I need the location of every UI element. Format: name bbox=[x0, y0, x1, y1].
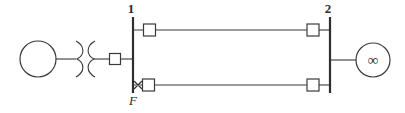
one-line-diagram-canvas: 1 F 2 ∞ bbox=[0, 0, 405, 113]
transmission-line-lower bbox=[133, 79, 330, 91]
breaker-line1-bus1-box[interactable] bbox=[144, 24, 156, 36]
breaker-gen-bus1[interactable] bbox=[110, 54, 134, 65]
breaker-gen-bus1-box[interactable] bbox=[110, 54, 121, 65]
generator-circle bbox=[20, 41, 56, 77]
bus-1[interactable]: 1 bbox=[128, 1, 135, 93]
one-line-diagram: 1 F 2 ∞ bbox=[0, 0, 405, 113]
generator-symbol bbox=[20, 41, 76, 77]
breaker-line1-bus2-box[interactable] bbox=[307, 24, 319, 36]
transformer-winding-left bbox=[76, 41, 83, 77]
transformer-symbol bbox=[76, 41, 110, 77]
breaker-line2-bus1-box[interactable] bbox=[143, 79, 155, 91]
transmission-line-upper bbox=[133, 24, 330, 36]
breaker-line2-bus2-box[interactable] bbox=[307, 79, 319, 91]
bus-2[interactable]: 2 bbox=[325, 1, 332, 93]
fault-label: F bbox=[128, 93, 138, 108]
transformer-winding-right bbox=[88, 41, 95, 77]
infinity-icon: ∞ bbox=[368, 52, 379, 68]
bus-2-label: 2 bbox=[325, 1, 332, 16]
bus-1-label: 1 bbox=[128, 1, 135, 16]
infinite-bus-symbol: ∞ bbox=[330, 43, 390, 77]
